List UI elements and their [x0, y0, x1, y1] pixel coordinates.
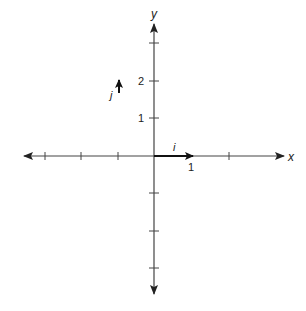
x-axis-label: x — [287, 150, 295, 164]
vector-j-label: j — [108, 89, 113, 101]
y-axis-label: y — [150, 7, 158, 21]
x-tick-label-1: 1 — [188, 161, 194, 173]
coordinate-plane: y x 2 1 1 i j — [0, 0, 306, 311]
y-tick-label-2: 2 — [138, 75, 144, 87]
vector-i-label: i — [173, 141, 176, 153]
y-tick-label-1: 1 — [138, 112, 144, 124]
